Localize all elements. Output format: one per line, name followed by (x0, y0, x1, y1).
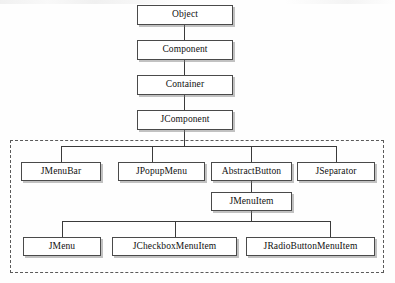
node-jmenuitem-label: JMenuItem (229, 197, 273, 207)
connector-object-to-component (184, 25, 185, 40)
node-jpopupmenu-label: JPopupMenu (136, 167, 187, 177)
node-jcomponent-label: JComponent (160, 115, 209, 125)
node-container[interactable]: Container (137, 75, 233, 95)
node-jseparator[interactable]: JSeparator (297, 162, 375, 181)
connector-bus-to-jmenu (62, 221, 63, 237)
node-jcheckboxmenuitem[interactable]: JCheckboxMenuItem (112, 237, 237, 256)
class-hierarchy-diagram: Object Component Container JComponent JM… (0, 0, 395, 283)
node-jcomponent[interactable]: JComponent (137, 110, 233, 130)
connector-jmenuitem-to-bus (251, 211, 252, 221)
connector-bus-to-abstractbutton (251, 146, 252, 162)
node-abstractbutton-label: AbstractButton (222, 167, 281, 177)
node-jcheckboxmenuitem-label: JCheckboxMenuItem (133, 242, 217, 252)
connector-bus-to-jmenubar (61, 146, 62, 162)
node-jradiobuttonmenuitem[interactable]: JRadioButtonMenuItem (246, 237, 375, 256)
connector-bus-row1 (61, 146, 337, 147)
node-object-label: Object (172, 10, 198, 20)
node-jmenubar[interactable]: JMenuBar (21, 162, 101, 181)
node-jmenu-label: JMenu (49, 242, 75, 252)
node-component[interactable]: Component (137, 40, 233, 60)
node-jmenubar-label: JMenuBar (41, 167, 81, 177)
connector-container-to-jcomponent (184, 95, 185, 110)
node-jpopupmenu[interactable]: JPopupMenu (118, 162, 205, 181)
node-object[interactable]: Object (137, 5, 233, 25)
node-jseparator-label: JSeparator (315, 167, 356, 177)
node-jmenuitem[interactable]: JMenuItem (211, 192, 292, 211)
connector-bus-to-jseparator (336, 146, 337, 162)
node-jradiobuttonmenuitem-label: JRadioButtonMenuItem (264, 242, 358, 252)
connector-abstractbutton-to-jmenuitem (251, 181, 252, 192)
connector-bus-row3 (62, 221, 330, 222)
node-component-label: Component (162, 45, 207, 55)
connector-jcomponent-to-bus (184, 130, 185, 146)
scan-artifact (0, 0, 395, 4)
connector-bus-to-jradiobuttonmenuitem (330, 221, 331, 237)
node-container-label: Container (166, 80, 204, 90)
connector-bus-to-jpopupmenu (152, 146, 153, 162)
connector-bus-to-jcheckboxmenuitem (175, 221, 176, 237)
node-jmenu[interactable]: JMenu (23, 237, 101, 256)
node-abstractbutton[interactable]: AbstractButton (211, 162, 292, 181)
connector-component-to-container (184, 60, 185, 75)
